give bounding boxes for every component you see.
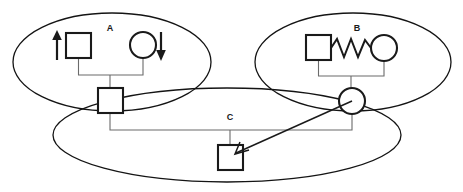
pointer-arrow-icon (235, 101, 352, 154)
symbol-square-c-male-left[interactable] (98, 88, 123, 113)
spring-connector-icon (331, 39, 371, 57)
symbol-square-a-male[interactable] (66, 33, 91, 58)
up-arrow-icon (52, 30, 62, 60)
group-label-b: B (354, 23, 361, 33)
pedigree-canvas: A B C (0, 0, 463, 192)
symbol-circle-b-female[interactable] (371, 35, 397, 61)
mating-line-b (319, 60, 385, 76)
symbol-circle-a-female[interactable] (130, 32, 156, 58)
down-arrow-icon (156, 32, 166, 61)
group-label-c: C (227, 112, 234, 122)
symbol-square-c-male-bottom[interactable] (218, 145, 243, 170)
mating-line-a (79, 58, 144, 75)
group-label-a: A (107, 23, 114, 33)
symbol-square-b-male[interactable] (306, 35, 331, 60)
pedigree-diagram: A B C (0, 0, 463, 192)
